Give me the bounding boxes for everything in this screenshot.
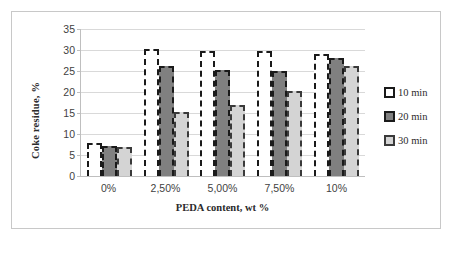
bar-10-min-250[interactable] [144, 49, 159, 176]
gridline [81, 176, 365, 177]
chart-legend: 10 min20 min30 min [384, 80, 444, 152]
x-axis-title: PEDA content, wt % [80, 202, 365, 213]
y-axis-title-text: Coke residue, % [31, 81, 42, 158]
bar-10-min-10[interactable] [314, 54, 329, 176]
legend-entry-20-min[interactable]: 20 min [384, 104, 444, 128]
bar-30-min-750[interactable] [287, 91, 302, 176]
bar-10-min-500[interactable] [200, 51, 215, 176]
y-axis-tick-label: 30 [63, 44, 75, 56]
y-axis-title: Coke residue, % [28, 12, 44, 228]
bar-30-min-250[interactable] [174, 112, 189, 176]
bar-30-min-10[interactable] [344, 66, 359, 176]
legend-label: 10 min [398, 87, 427, 98]
legend-swatch-icon [384, 135, 395, 146]
x-axis-tick-label: 0% [80, 182, 137, 202]
bar-20-min-750[interactable] [272, 71, 287, 176]
bar-30-min-0[interactable] [117, 147, 132, 176]
plot-area: 05101520253035 [80, 29, 365, 176]
y-axis-tick-label: 35 [63, 23, 75, 35]
x-axis-tick-labels: 0%2,50%5,00%7,50%10% [80, 182, 365, 202]
y-axis-tick-label: 10 [63, 128, 75, 140]
bar-20-min-0[interactable] [102, 146, 117, 176]
bar-group [308, 29, 365, 176]
legend-swatch-icon [384, 87, 395, 98]
legend-swatch-icon [384, 111, 395, 122]
y-axis-tick-mark [77, 176, 81, 177]
bar-group [138, 29, 195, 176]
x-axis-tick-label: 5,00% [194, 182, 251, 202]
bar-group [251, 29, 308, 176]
bar-group [195, 29, 252, 176]
y-axis-tick-label: 15 [63, 107, 75, 119]
y-axis-tick-label: 5 [69, 149, 75, 161]
chart-figure: Coke residue, % 05101520253035 0%2,50%5,… [11, 11, 441, 229]
x-axis-tick-label: 10% [308, 182, 365, 202]
y-axis-tick-label: 0 [69, 170, 75, 182]
x-axis-tick-label: 2,50% [137, 182, 194, 202]
bar-10-min-0[interactable] [87, 143, 102, 176]
bar-20-min-10[interactable] [329, 58, 344, 176]
bar-group [81, 29, 138, 176]
y-axis-tick-label: 20 [63, 86, 75, 98]
bar-20-min-250[interactable] [159, 66, 174, 176]
bar-30-min-500[interactable] [230, 105, 245, 176]
legend-entry-30-min[interactable]: 30 min [384, 128, 444, 152]
legend-entry-10-min[interactable]: 10 min [384, 80, 444, 104]
bars-layer [81, 29, 365, 176]
bar-10-min-750[interactable] [257, 51, 272, 176]
x-axis-tick-label: 7,50% [251, 182, 308, 202]
legend-label: 20 min [398, 111, 427, 122]
y-axis-tick-label: 25 [63, 65, 75, 77]
bar-20-min-500[interactable] [215, 70, 230, 176]
legend-label: 30 min [398, 135, 427, 146]
